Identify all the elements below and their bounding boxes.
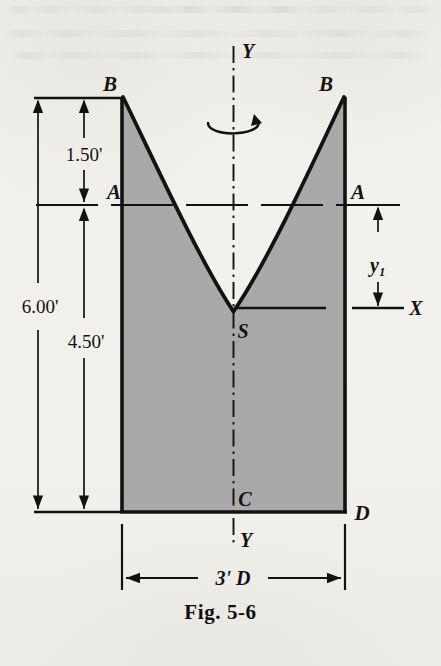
label-point-b-left: B: [102, 72, 117, 96]
label-point-s: S: [237, 320, 248, 342]
label-point-c: C: [238, 488, 252, 510]
y1-base: y₁: [368, 254, 386, 277]
label-point-d: D: [353, 501, 369, 525]
figure-caption: Fig. 5-6: [0, 600, 441, 625]
label-point-a-left: A: [105, 180, 121, 204]
dimension-label-6p00: 6.00': [22, 296, 59, 317]
figure-drawing: B B A A S C D Y Y X 1.50' 4.50' 6.00' y₁…: [0, 0, 441, 666]
label-axis-x: X: [408, 297, 423, 319]
dimension-label-4p50: 4.50': [68, 331, 105, 352]
figure-page: B B A A S C D Y Y X 1.50' 4.50' 6.00' y₁…: [0, 0, 441, 666]
dimension-label-y1: y₁: [368, 254, 386, 277]
label-axis-y-bottom: Y: [240, 529, 254, 551]
label-point-a-right: A: [349, 180, 365, 204]
revolution-arrow-icon: [208, 114, 262, 133]
label-axis-y-top: Y: [242, 40, 256, 62]
dimension-label-1p50: 1.50': [66, 144, 103, 165]
label-point-b-right: B: [318, 72, 333, 96]
dimension-label-base-width: 3' D: [215, 567, 251, 589]
